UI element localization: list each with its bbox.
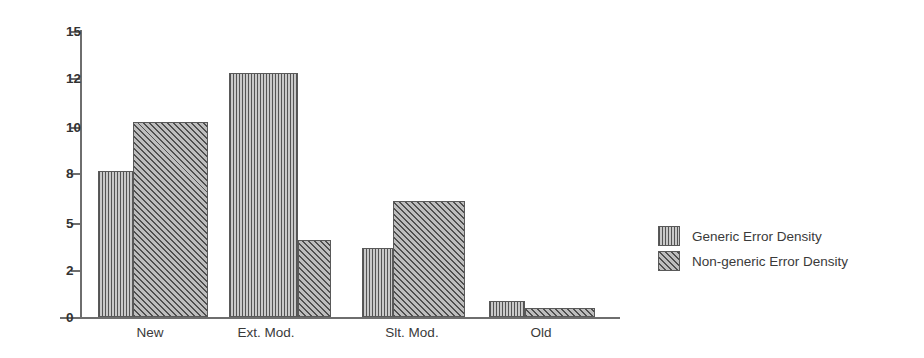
plot-area: 15 12 10 8 5 2 0 [0, 0, 924, 358]
x-axis-label-slt-mod: Slt. Mod. [385, 325, 438, 340]
legend-swatch-non-generic-icon [658, 251, 680, 271]
bar-chart: 15 12 10 8 5 2 0 [0, 0, 924, 358]
legend-swatch-generic-icon [658, 226, 680, 246]
bar-slt-mod-non-generic [393, 201, 465, 317]
legend-item-non-generic: Non-generic Error Density [658, 251, 848, 271]
bar-old-generic [489, 301, 525, 317]
legend-label-non-generic: Non-generic Error Density [692, 254, 848, 269]
x-axis-label-ext-mod: Ext. Mod. [237, 325, 294, 340]
legend-item-generic: Generic Error Density [658, 226, 848, 246]
bar-new-generic [98, 171, 133, 317]
bar-ext-mod-generic [229, 73, 298, 317]
x-axis-line [60, 317, 620, 319]
bar-new-non-generic [133, 122, 208, 317]
chart-legend: Generic Error Density Non-generic Error … [658, 226, 848, 276]
bar-ext-mod-non-generic [298, 240, 331, 317]
legend-label-generic: Generic Error Density [692, 229, 822, 244]
x-axis-label-new: New [136, 325, 163, 340]
bar-old-non-generic [525, 308, 595, 317]
x-axis-label-old: Old [530, 325, 551, 340]
bar-slt-mod-generic [362, 248, 393, 317]
